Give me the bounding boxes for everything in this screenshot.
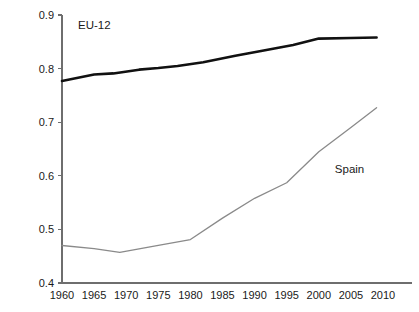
y-tick-label: 0.5: [39, 223, 54, 235]
line-chart: 0.40.50.60.70.80.9 196019651970197519801…: [0, 0, 419, 312]
series-label-eu-12: EU-12: [78, 19, 111, 31]
series-lines: [62, 38, 377, 253]
series-annotations: EU-12Spain: [78, 19, 364, 175]
x-tick-label: 1980: [178, 289, 202, 301]
x-tick-label: 1975: [146, 289, 170, 301]
y-tick-label: 0.7: [39, 116, 54, 128]
series-line-eu-12: [62, 38, 377, 81]
x-tick-label: 1985: [210, 289, 234, 301]
series-line-spain: [62, 108, 377, 253]
x-tick-label: 1990: [242, 289, 266, 301]
x-tick-label: 1970: [114, 289, 138, 301]
y-tick-label: 0.8: [39, 63, 54, 75]
x-tick-label: 1995: [274, 289, 298, 301]
x-tick-label: 2000: [307, 289, 331, 301]
x-tick-label: 1960: [50, 289, 74, 301]
series-label-spain: Spain: [335, 163, 364, 175]
chart-plot-area: 0.40.50.60.70.80.9 196019651970197519801…: [0, 0, 419, 312]
y-tick-label: 0.9: [39, 9, 54, 21]
x-axis: 1960196519701975198019851990199520002005…: [50, 283, 412, 301]
y-tick-label: 0.4: [39, 277, 54, 289]
y-axis: 0.40.50.60.70.80.9: [39, 9, 62, 289]
x-tick-label: 2005: [339, 289, 363, 301]
x-tick-label: 1965: [82, 289, 106, 301]
x-tick-label: 2010: [371, 289, 395, 301]
y-tick-label: 0.6: [39, 170, 54, 182]
